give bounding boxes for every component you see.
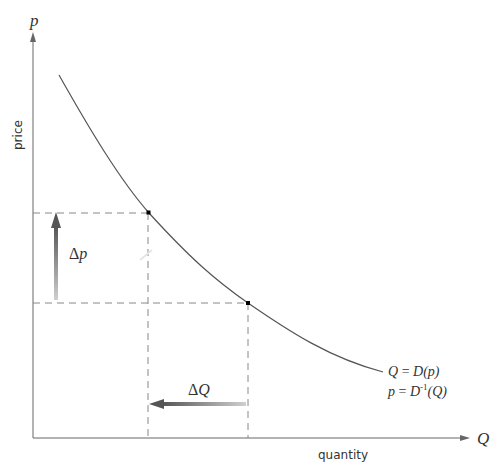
x-axis-label: quantity bbox=[318, 448, 368, 462]
delta-q-arrow-shaft bbox=[162, 402, 246, 406]
delta-q-label: ΔQ bbox=[188, 381, 210, 398]
demand-curve bbox=[59, 75, 383, 372]
curve-label-inverse-demand: p = D-1(Q) bbox=[387, 382, 447, 400]
faint-mark bbox=[140, 250, 152, 260]
curve-point-1 bbox=[147, 211, 151, 215]
x-axis-arrowhead bbox=[460, 435, 470, 441]
x-axis-symbol: Q bbox=[477, 429, 489, 448]
delta-p-label: Δp bbox=[69, 245, 87, 263]
delta-p-arrowhead bbox=[51, 212, 61, 228]
delta-q-arrowhead bbox=[149, 399, 164, 409]
curve-point-2 bbox=[246, 301, 250, 305]
demand-diagram: p price Q quantity Δp ΔQ Q = D(p) p = D-… bbox=[0, 0, 501, 474]
y-axis-arrowhead bbox=[30, 32, 36, 42]
y-axis-label: price bbox=[11, 120, 25, 150]
curve-label-demand: Q = D(p) bbox=[388, 364, 440, 380]
y-axis-symbol: p bbox=[29, 11, 39, 30]
delta-p-arrow-shaft bbox=[54, 226, 58, 300]
